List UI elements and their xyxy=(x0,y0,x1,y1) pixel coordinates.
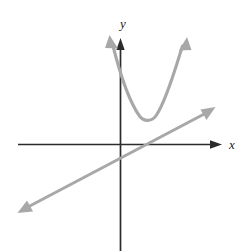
coordinate-graph: x y xyxy=(0,0,248,251)
y-axis-label: y xyxy=(118,16,126,31)
parabola-left-arrowhead xyxy=(105,35,118,49)
parabola-curve xyxy=(113,44,183,120)
straight-line xyxy=(26,112,208,208)
x-axis-arrowhead xyxy=(210,140,222,149)
parabola-right-arrowhead xyxy=(179,37,192,51)
graph-figure: x y xyxy=(0,0,248,251)
straight-line-group xyxy=(18,107,216,213)
x-axis-label: x xyxy=(228,137,235,152)
axes-group: x y xyxy=(18,16,235,251)
